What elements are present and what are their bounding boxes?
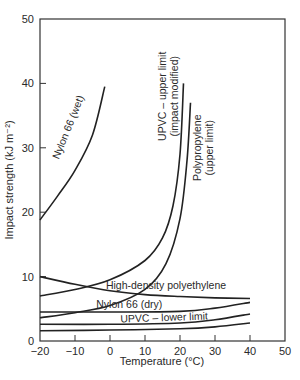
x-tick-label: 30 <box>209 345 221 357</box>
series-label: High-density polyethylene <box>106 279 226 291</box>
series-label: Nylon 66 (dry) <box>96 298 162 310</box>
x-tick-label: 40 <box>244 345 256 357</box>
x-tick-label: −10 <box>66 345 85 357</box>
y-tick-label: 50 <box>22 13 34 25</box>
x-tick-label: 0 <box>107 345 113 357</box>
y-tick-label: 0 <box>28 335 34 347</box>
series-label: UPVC – upper limit <box>156 52 168 141</box>
x-axis-label: Temperature (°C) <box>120 355 204 367</box>
x-tick-label: 50 <box>279 345 291 357</box>
y-tick-label: 30 <box>22 142 34 154</box>
y-axis-label: Impact strength (kJ m⁻²) <box>3 120 15 239</box>
series-label: (upper limit) <box>203 120 215 175</box>
series-label: Nylon 66 (wet) <box>50 93 86 160</box>
chart-canvas: −20−100102030405001020304050 Nylon 66 (w… <box>0 0 300 380</box>
series-label: (impact modified) <box>168 56 180 137</box>
y-tick-label: 10 <box>22 271 34 283</box>
y-tick-label: 40 <box>22 77 34 89</box>
impact-strength-chart: −20−100102030405001020304050 Nylon 66 (w… <box>0 0 300 380</box>
series-labels: Nylon 66 (wet)UPVC – upper limit(impact … <box>50 52 227 325</box>
series-label: Polypropylene <box>191 114 203 181</box>
y-tick-label: 20 <box>22 206 34 218</box>
